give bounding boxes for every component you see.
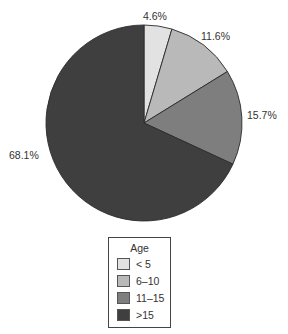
legend-item-under-5: < 5 — [117, 257, 151, 271]
legend-item-over-15: >15 — [117, 308, 154, 322]
legend-label: < 5 — [136, 258, 151, 270]
legend: Age < 5 6–10 11–15 >15 — [108, 237, 171, 328]
legend-swatch — [117, 309, 130, 321]
legend-swatch — [117, 292, 130, 304]
slice-label-under-5: 4.6% — [143, 10, 167, 22]
legend-item-11-15: 11–15 — [117, 291, 164, 305]
slice-label-11-15: 15.7% — [247, 109, 277, 121]
legend-label: 11–15 — [136, 292, 164, 304]
legend-swatch — [117, 275, 130, 287]
legend-label: >15 — [136, 309, 154, 321]
legend-swatch — [117, 258, 130, 270]
slice-label-6-10: 11.6% — [201, 30, 230, 42]
legend-title: Age — [109, 242, 170, 254]
legend-label: 6–10 — [136, 275, 159, 287]
legend-item-6-10: 6–10 — [117, 274, 159, 288]
slice-label-over-15: 68.1% — [9, 149, 39, 161]
